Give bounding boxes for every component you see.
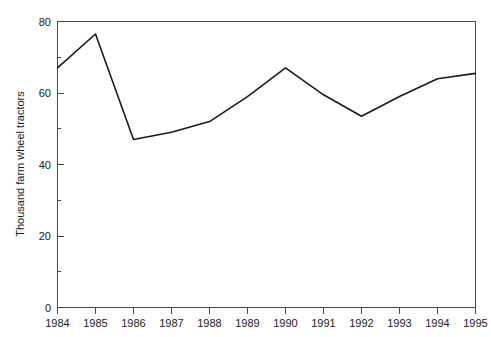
y-tick-label-80: 80: [39, 16, 51, 28]
x-tick-label-1991: 1991: [311, 317, 335, 329]
chart-background: [0, 0, 491, 337]
x-tick-label-1990: 1990: [273, 317, 297, 329]
x-tick-label-1987: 1987: [159, 317, 183, 329]
y-tick-label-0: 0: [45, 302, 51, 314]
chart-canvas: 0 20 40 60 80 Thousand farm wheel tracto…: [0, 0, 491, 337]
x-tick-label-1993: 1993: [387, 317, 411, 329]
x-tick-label-1995: 1995: [463, 317, 487, 329]
x-tick-label-1988: 1988: [197, 317, 221, 329]
x-tick-label-1992: 1992: [349, 317, 373, 329]
x-tick-label-1986: 1986: [121, 317, 145, 329]
y-tick-label-20: 20: [39, 230, 51, 242]
y-tick-label-40: 40: [39, 159, 51, 171]
y-axis-title: Thousand farm wheel tractors: [14, 91, 26, 237]
line-chart: 0 20 40 60 80 Thousand farm wheel tracto…: [0, 0, 491, 337]
x-tick-label-1994: 1994: [425, 317, 449, 329]
x-tick-label-1985: 1985: [83, 317, 107, 329]
y-tick-label-60: 60: [39, 87, 51, 99]
x-tick-label-1989: 1989: [235, 317, 259, 329]
x-tick-label-1984: 1984: [45, 317, 69, 329]
